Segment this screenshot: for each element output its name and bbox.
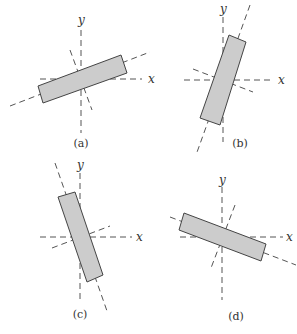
panel-caption: (d): [228, 310, 244, 323]
panel-d: x y (d): [170, 173, 296, 323]
y-axis-label: y: [218, 173, 226, 187]
panel-caption: (b): [232, 137, 248, 150]
x-axis-label: x: [286, 230, 293, 244]
panel-caption: (a): [73, 137, 88, 150]
y-axis-label: y: [77, 13, 85, 27]
y-axis-label: y: [76, 158, 84, 172]
y-axis-label: y: [219, 2, 227, 16]
x-axis-label: x: [148, 72, 155, 86]
panel-caption: (c): [73, 308, 88, 321]
x-axis-label: x: [278, 73, 285, 87]
figure-canvas: x y (a) x y (b) x y (c) x y (d): [0, 0, 297, 334]
panel-a: x y (a): [10, 13, 155, 150]
panel-b: x y (b): [184, 2, 285, 155]
x-axis-label: x: [136, 230, 143, 244]
panel-c: x y (c): [40, 158, 143, 321]
